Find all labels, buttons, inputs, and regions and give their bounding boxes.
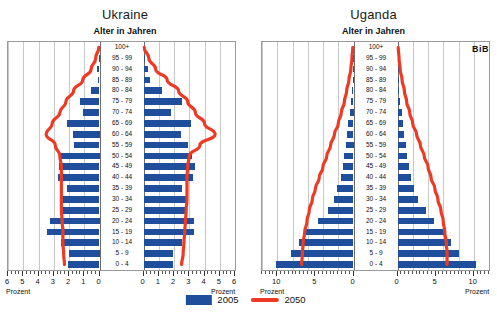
x-tick-label: 5 xyxy=(20,277,24,286)
axis-tick-major xyxy=(473,271,474,276)
line-2050-left xyxy=(46,47,99,264)
axis-tick xyxy=(337,271,338,274)
axis-tick xyxy=(196,271,197,274)
x-tick-label: 1 xyxy=(81,277,85,286)
axis-tick-major xyxy=(68,271,69,276)
axis-tick-major xyxy=(188,271,189,276)
axis-title-ukraine: Alter in Jahren xyxy=(0,26,250,36)
axis-tick xyxy=(326,271,327,274)
plot-area-ukraine xyxy=(7,41,236,271)
axis-tick xyxy=(423,271,424,274)
axis-tick xyxy=(79,271,80,274)
axis-tick xyxy=(307,271,308,274)
axis-tick-major xyxy=(234,271,235,276)
axis-tick-major xyxy=(353,271,354,276)
axis-tick xyxy=(177,271,178,274)
legend-line-2050 xyxy=(251,298,279,302)
x-tick-label: 1 xyxy=(156,277,160,286)
chart-legend: 2005 2050 xyxy=(0,294,497,310)
tick-labels-uganda: 10500510 xyxy=(261,277,490,288)
axis-tick xyxy=(488,271,489,274)
axis-tick xyxy=(322,271,323,274)
axis-tick xyxy=(341,271,342,274)
axis-tick xyxy=(458,271,459,274)
axis-tick xyxy=(419,271,420,274)
axis-tick-major xyxy=(99,271,100,276)
axis-tick xyxy=(292,271,293,274)
axis-tick xyxy=(223,271,224,274)
axis-tick-major xyxy=(7,271,8,276)
axis-tick xyxy=(400,271,401,274)
axis-tick xyxy=(150,271,151,274)
axis-tick xyxy=(303,271,304,274)
axis-tick xyxy=(192,271,193,274)
axis-title-uganda: Alter in Jahren xyxy=(250,26,497,36)
axis-tick xyxy=(34,271,35,274)
axis-tick xyxy=(26,271,27,274)
axis-tick xyxy=(169,271,170,274)
axis-tick xyxy=(57,271,58,274)
axis-tick xyxy=(450,271,451,274)
x-tick-label: 5 xyxy=(312,277,316,286)
axis-tick xyxy=(154,271,155,274)
axis-tick xyxy=(469,271,470,274)
axis-tick xyxy=(465,271,466,274)
axis-tick xyxy=(265,271,266,274)
axis-tick xyxy=(60,271,61,274)
axis-tick xyxy=(261,271,262,274)
axis-tick xyxy=(412,271,413,274)
axis-tick xyxy=(76,271,77,274)
axis-tick xyxy=(280,271,281,274)
x-tick-label: 3 xyxy=(186,277,190,286)
legend-label-2050: 2050 xyxy=(285,294,306,305)
axis-tick xyxy=(330,271,331,274)
axis-tick xyxy=(226,271,227,274)
axis-tick xyxy=(41,271,42,274)
axis-tick xyxy=(230,271,231,274)
axis-tick xyxy=(408,271,409,274)
axis-tick xyxy=(431,271,432,274)
x-tick-label: 2 xyxy=(66,277,70,286)
axis-tick xyxy=(404,271,405,274)
axis-tick xyxy=(162,271,163,274)
x-tick-label: 0 xyxy=(96,277,100,286)
axis-tick xyxy=(269,271,270,274)
chart-title-ukraine: Ukraine xyxy=(0,7,250,22)
axis-tick-major xyxy=(53,271,54,276)
axis-tick xyxy=(311,271,312,274)
x-tick-label: 10 xyxy=(272,277,280,286)
axis-tick xyxy=(284,271,285,274)
axis-tick-major xyxy=(143,271,144,276)
axis-tick xyxy=(318,271,319,274)
gridline xyxy=(489,42,490,270)
chart-panel-ukraine: Ukraine Alter in Jahren 100+95 - 9990 - … xyxy=(0,0,250,317)
axis-tick xyxy=(165,271,166,274)
x-tick-label: 4 xyxy=(201,277,205,286)
chart-title-uganda: Uganda xyxy=(250,7,497,22)
axis-tick xyxy=(184,271,185,274)
x-tick-label: 6 xyxy=(5,277,9,286)
x-tick-label: 0 xyxy=(350,277,354,286)
axis-tick xyxy=(480,271,481,274)
axis-tick xyxy=(211,271,212,274)
plot-area-uganda xyxy=(261,41,490,271)
x-tick-label: 10 xyxy=(469,277,477,286)
axis-tick xyxy=(87,271,88,274)
axis-tick xyxy=(446,271,447,274)
axis-tick xyxy=(349,271,350,274)
axis-tick-major xyxy=(38,271,39,276)
bib-logo: BiB xyxy=(472,44,489,54)
tick-labels-ukraine: 65432100123456 xyxy=(7,277,236,288)
axis-tick xyxy=(215,271,216,274)
axis-tick-major xyxy=(314,271,315,276)
axis-tick xyxy=(49,271,50,274)
axis-tick xyxy=(427,271,428,274)
axis-tick xyxy=(181,271,182,274)
x-tick-label: 5 xyxy=(217,277,221,286)
axis-tick-major xyxy=(158,271,159,276)
axis-tick xyxy=(345,271,346,274)
axis-tick xyxy=(207,271,208,274)
axis-tick xyxy=(454,271,455,274)
x-tick-label: 2 xyxy=(171,277,175,286)
axis-tick xyxy=(64,271,65,274)
